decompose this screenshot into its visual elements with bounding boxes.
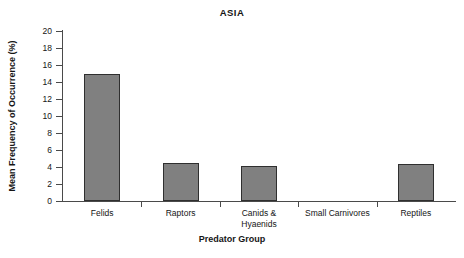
category-label: Canids &Hyaenids — [220, 208, 298, 229]
category-label: Reptiles — [377, 208, 455, 219]
y-axis-title: Mean Frequency of Occurrence (%) — [7, 40, 17, 191]
y-tick-label: 2 — [24, 179, 52, 189]
category-label: Raptors — [141, 208, 219, 219]
chart-title: ASIA — [0, 7, 464, 18]
y-tick-mark — [56, 82, 62, 83]
category-label-line: Raptors — [166, 208, 196, 218]
x-tick-mark — [141, 202, 142, 207]
y-tick-mark — [56, 99, 62, 100]
y-tick-label: 0 — [24, 196, 52, 206]
x-axis-line — [62, 201, 456, 202]
y-axis-title-wrap: Mean Frequency of Occurrence (%) — [4, 31, 20, 201]
y-tick-label: 18 — [24, 43, 52, 53]
bar-chart: ASIA Mean Frequency of Occurrence (%) 20… — [0, 0, 464, 258]
y-tick-label: 16 — [24, 60, 52, 70]
y-tick-label: 14 — [24, 77, 52, 87]
x-tick-mark — [377, 202, 378, 207]
bar-felids — [84, 74, 120, 202]
category-label: Small Carnivores — [298, 208, 376, 219]
bar-reptiles — [398, 164, 434, 201]
y-tick-label: 6 — [24, 145, 52, 155]
y-tick-mark — [56, 201, 62, 202]
x-tick-mark — [298, 202, 299, 207]
y-tick-mark — [56, 167, 62, 168]
y-tick-mark — [56, 31, 62, 32]
category-label-line: Small Carnivores — [305, 208, 370, 218]
x-axis-title: Predator Group — [0, 234, 464, 244]
y-tick-label: 10 — [24, 111, 52, 121]
y-tick-mark — [56, 48, 62, 49]
y-tick-mark — [56, 133, 62, 134]
bar-raptors — [163, 163, 199, 201]
category-label-line: Hyaenids — [220, 219, 298, 230]
y-tick-mark — [56, 116, 62, 117]
y-tick-mark — [56, 150, 62, 151]
y-tick-label: 8 — [24, 128, 52, 138]
x-tick-mark — [220, 202, 221, 207]
category-label: Felids — [63, 208, 141, 219]
y-tick-mark — [56, 184, 62, 185]
category-label-line: Reptiles — [400, 208, 431, 218]
y-tick-mark — [56, 65, 62, 66]
y-tick-label: 12 — [24, 94, 52, 104]
y-tick-label: 20 — [24, 26, 52, 36]
category-label-line: Felids — [91, 208, 114, 218]
category-label-line: Canids & — [242, 208, 277, 218]
y-tick-label: 4 — [24, 162, 52, 172]
plot-area — [63, 31, 455, 201]
bar-canids-hyaenids — [241, 166, 277, 201]
